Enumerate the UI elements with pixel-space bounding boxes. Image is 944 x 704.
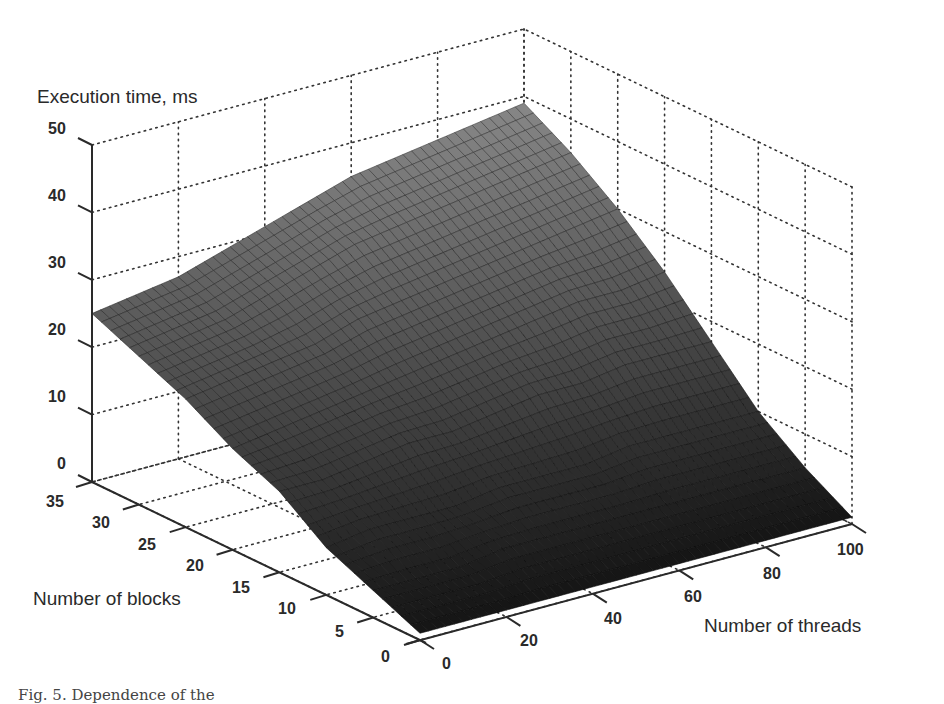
x-tick-label: 0 [442, 655, 451, 673]
x-tick-label: 60 [684, 588, 702, 606]
y-tick-label: 10 [278, 600, 296, 618]
x-tick-label: 20 [520, 632, 538, 650]
y-tick-label: 0 [381, 648, 390, 666]
z-tick-label: 10 [48, 388, 66, 406]
y-tick-label: 25 [138, 536, 156, 554]
y-axis-title: Number of blocks [33, 588, 181, 610]
z-tick-label: 40 [48, 187, 66, 205]
y-tick-label: 15 [232, 579, 250, 597]
z-tick-label: 30 [48, 254, 66, 272]
z-tick-label: 50 [48, 120, 66, 138]
z-axis-title: Execution time, ms [37, 86, 198, 108]
z-tick-label: 20 [48, 321, 66, 339]
x-tick-label: 100 [837, 541, 864, 559]
y-tick-label: 5 [335, 623, 344, 641]
y-tick-label: 30 [92, 514, 110, 532]
y-tick-label: 35 [46, 493, 64, 511]
x-axis-title: Number of threads [704, 615, 861, 637]
x-tick-label: 40 [604, 610, 622, 628]
figure-caption: Fig. 5. Dependence of the [18, 686, 215, 704]
x-tick-label: 80 [763, 565, 781, 583]
y-tick-label: 20 [186, 557, 204, 575]
z-tick-label: 0 [57, 455, 66, 473]
